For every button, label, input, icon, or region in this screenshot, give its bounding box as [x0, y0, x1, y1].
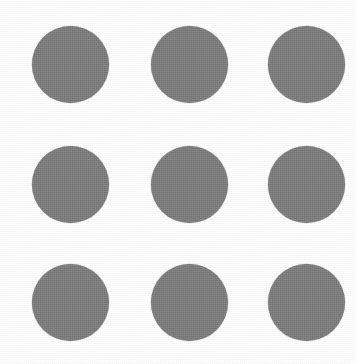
dot-r1-c3 — [268, 26, 345, 103]
dot-r2-c2 — [151, 146, 228, 223]
dot-r1-c2 — [151, 26, 228, 103]
dot-r3-c3 — [268, 264, 345, 341]
dot-r3-c2 — [151, 264, 228, 341]
dot-r1-c1 — [32, 26, 109, 103]
dot-r3-c1 — [32, 264, 109, 341]
image-canvas — [0, 0, 356, 364]
dot-r2-c1 — [32, 146, 109, 223]
dot-grid — [0, 0, 356, 364]
dot-r2-c3 — [268, 146, 345, 223]
